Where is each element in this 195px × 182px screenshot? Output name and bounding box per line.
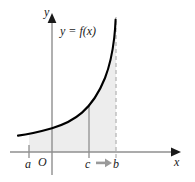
x-tick-label-c: c bbox=[85, 158, 90, 170]
plot-area bbox=[0, 0, 195, 182]
shaded-area-under-curve bbox=[29, 19, 116, 152]
figure-canvas: y x y = f(x) a O c b bbox=[0, 0, 195, 182]
function-label: y = f(x) bbox=[60, 25, 96, 37]
x-tick-label-b: b bbox=[113, 158, 119, 170]
origin-label: O bbox=[38, 156, 47, 168]
c-approaches-b-arrow bbox=[96, 159, 112, 168]
x-axis-label: x bbox=[174, 156, 179, 168]
x-tick-label-a: a bbox=[25, 158, 31, 170]
y-axis-label: y bbox=[44, 6, 49, 18]
